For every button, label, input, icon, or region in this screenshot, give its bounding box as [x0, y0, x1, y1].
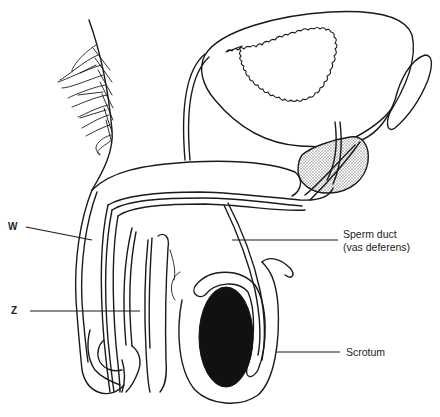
bladder-inner: [226, 28, 337, 102]
label-z: Z: [11, 305, 17, 317]
pubic-region: [58, 20, 113, 190]
testis: [199, 287, 253, 387]
leader-w: [26, 227, 92, 240]
label-w: W: [8, 221, 17, 233]
seminal-vesicle: [388, 55, 432, 130]
pubic-hair: [58, 45, 113, 155]
bladder-outer: [202, 12, 414, 147]
label-sperm-duct: Sperm duct: [343, 228, 397, 240]
label-vas-deferens: (vas deferens): [343, 241, 410, 253]
label-scrotum: Scrotum: [346, 346, 385, 358]
